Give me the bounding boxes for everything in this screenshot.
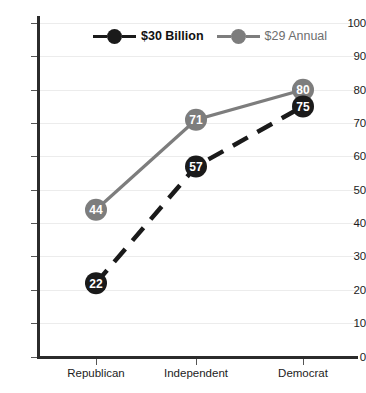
marker-value-label: 80 bbox=[296, 83, 310, 97]
marker-value-label: 57 bbox=[189, 160, 203, 174]
marker-value-label: 75 bbox=[296, 100, 310, 114]
series-line-2 bbox=[96, 90, 303, 210]
chart-legend: $30 Billion $29 Annual bbox=[93, 26, 327, 46]
legend-line2-series1 bbox=[122, 35, 136, 38]
data-point-independent-series1: 57 bbox=[185, 155, 207, 177]
legend-marker-series1 bbox=[107, 29, 122, 44]
data-point-republican-series1: 22 bbox=[85, 272, 107, 294]
series-line-1 bbox=[96, 106, 303, 283]
legend-entry-series1: $30 Billion bbox=[93, 29, 204, 44]
data-point-democrat-series1: 75 bbox=[292, 95, 314, 117]
legend-line2-series2 bbox=[246, 35, 260, 38]
legend-entry-series2: $29 Annual bbox=[217, 29, 328, 44]
legend-marker-series2 bbox=[231, 29, 246, 44]
legend-label-series1: $30 Billion bbox=[141, 29, 204, 43]
marker-value-label: 22 bbox=[89, 277, 103, 291]
marker-value-label: 44 bbox=[89, 203, 103, 217]
legend-label-series2: $29 Annual bbox=[265, 29, 328, 43]
legend-line-series1 bbox=[93, 35, 107, 38]
data-point-republican-series2: 44 bbox=[85, 199, 107, 221]
legend-line-series2 bbox=[217, 35, 231, 38]
line-chart: 0102030405060708090100 RepublicanIndepen… bbox=[0, 0, 366, 393]
marker-value-label: 71 bbox=[189, 113, 203, 127]
plot-area: 447180225775 bbox=[0, 0, 366, 393]
data-point-independent-series2: 71 bbox=[185, 109, 207, 131]
